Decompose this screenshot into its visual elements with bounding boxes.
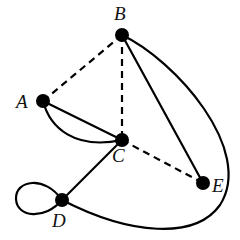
edge-b-e <box>122 35 203 183</box>
node-e <box>196 176 210 190</box>
node-b <box>115 28 129 42</box>
graph-diagram: A B C D E <box>0 0 240 240</box>
node-label-c: C <box>112 145 125 166</box>
node-label-a: A <box>14 91 28 112</box>
edge-a-c-straight <box>43 101 122 140</box>
node-a <box>36 94 50 108</box>
node-label-d: D <box>51 210 66 231</box>
edge-b-d-curved <box>62 35 229 229</box>
edge-a-b <box>43 35 122 101</box>
node-label-e: E <box>211 175 224 196</box>
graph-svg: A B C D E <box>0 0 240 240</box>
node-label-b: B <box>114 3 126 24</box>
node-d <box>55 193 69 207</box>
